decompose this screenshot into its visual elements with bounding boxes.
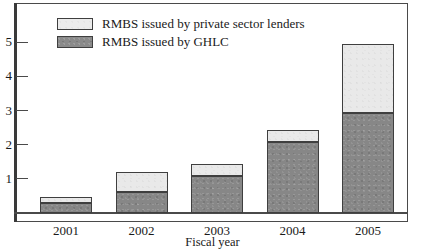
chart-legend: RMBS issued by private sector lenders RM…: [57, 16, 305, 52]
legend-label-private-sector: RMBS issued by private sector lenders: [102, 17, 305, 31]
bar-2005: [342, 44, 394, 213]
legend-swatch-private-sector-icon: [57, 18, 93, 30]
chart-container: 12345 20012002200320042005 Fiscal year R…: [0, 0, 425, 249]
y-axis-tick-label: 1: [0, 172, 12, 185]
bar-segment-ghlc-2004: [267, 142, 319, 213]
bar-segment-private-sector-2005: [342, 44, 394, 113]
x-axis-title: Fiscal year: [0, 236, 425, 249]
legend-label-ghlc: RMBS issued by GHLC: [102, 35, 229, 49]
bar-segment-ghlc-2005: [342, 113, 394, 213]
legend-item-private-sector: RMBS issued by private sector lenders: [57, 16, 305, 31]
bar-segment-private-sector-2003: [191, 164, 243, 176]
bar-segment-ghlc-2001: [40, 203, 92, 213]
y-axis-tick-label: 4: [0, 69, 12, 82]
bar-2002: [116, 172, 168, 213]
bar-2004: [267, 130, 319, 213]
y-axis-tick: [16, 178, 28, 180]
y-axis-tick: [16, 42, 28, 44]
bar-segment-ghlc-2003: [191, 176, 243, 212]
y-axis-line: [14, 3, 17, 222]
y-axis-tick-label: 2: [0, 138, 12, 151]
bar-segment-private-sector-2004: [267, 130, 319, 142]
bar-2003: [191, 164, 243, 212]
y-axis-tick: [16, 144, 28, 146]
legend-item-ghlc: RMBS issued by GHLC: [57, 34, 305, 49]
bar-2001: [40, 197, 92, 213]
bar-segment-ghlc-2002: [116, 192, 168, 212]
y-axis-tick-label: 5: [0, 35, 12, 48]
y-axis-tick: [16, 110, 28, 112]
y-axis-tick: [16, 76, 28, 78]
bar-segment-private-sector-2002: [116, 172, 168, 192]
legend-swatch-ghlc-icon: [57, 36, 93, 48]
y-axis-tick-label: 3: [0, 104, 12, 117]
